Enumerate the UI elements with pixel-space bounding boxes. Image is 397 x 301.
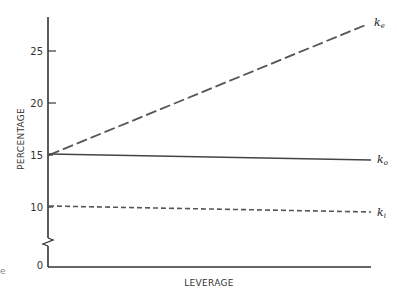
chart: 25 20 15 10 0 PERCENTAGE LEVERAGE ke ko …	[0, 0, 397, 301]
y-tick-label-0: 0	[37, 260, 43, 271]
y-tick-label-10: 10	[30, 202, 43, 213]
y-tick-label-25: 25	[30, 46, 43, 57]
y-axis-break	[43, 238, 53, 246]
series-line-ki	[49, 206, 371, 212]
y-tick-label-20: 20	[30, 98, 43, 109]
series-label-ke-sub: e	[381, 22, 385, 30]
series-label-ki-sub: i	[384, 212, 386, 220]
y-tick-label-15: 15	[30, 150, 43, 161]
stray-scan-mark: e	[0, 266, 6, 276]
series-line-ko	[49, 154, 371, 160]
series-line-ke	[49, 24, 368, 155]
series-label-ki: ki	[377, 206, 386, 220]
y-axis-title: PERCENTAGE	[16, 108, 26, 170]
series-label-ke: ke	[374, 16, 385, 30]
series-label-ko: ko	[377, 153, 388, 167]
series-label-ko-sub: o	[384, 159, 388, 167]
x-axis-title: LEVERAGE	[184, 278, 234, 288]
